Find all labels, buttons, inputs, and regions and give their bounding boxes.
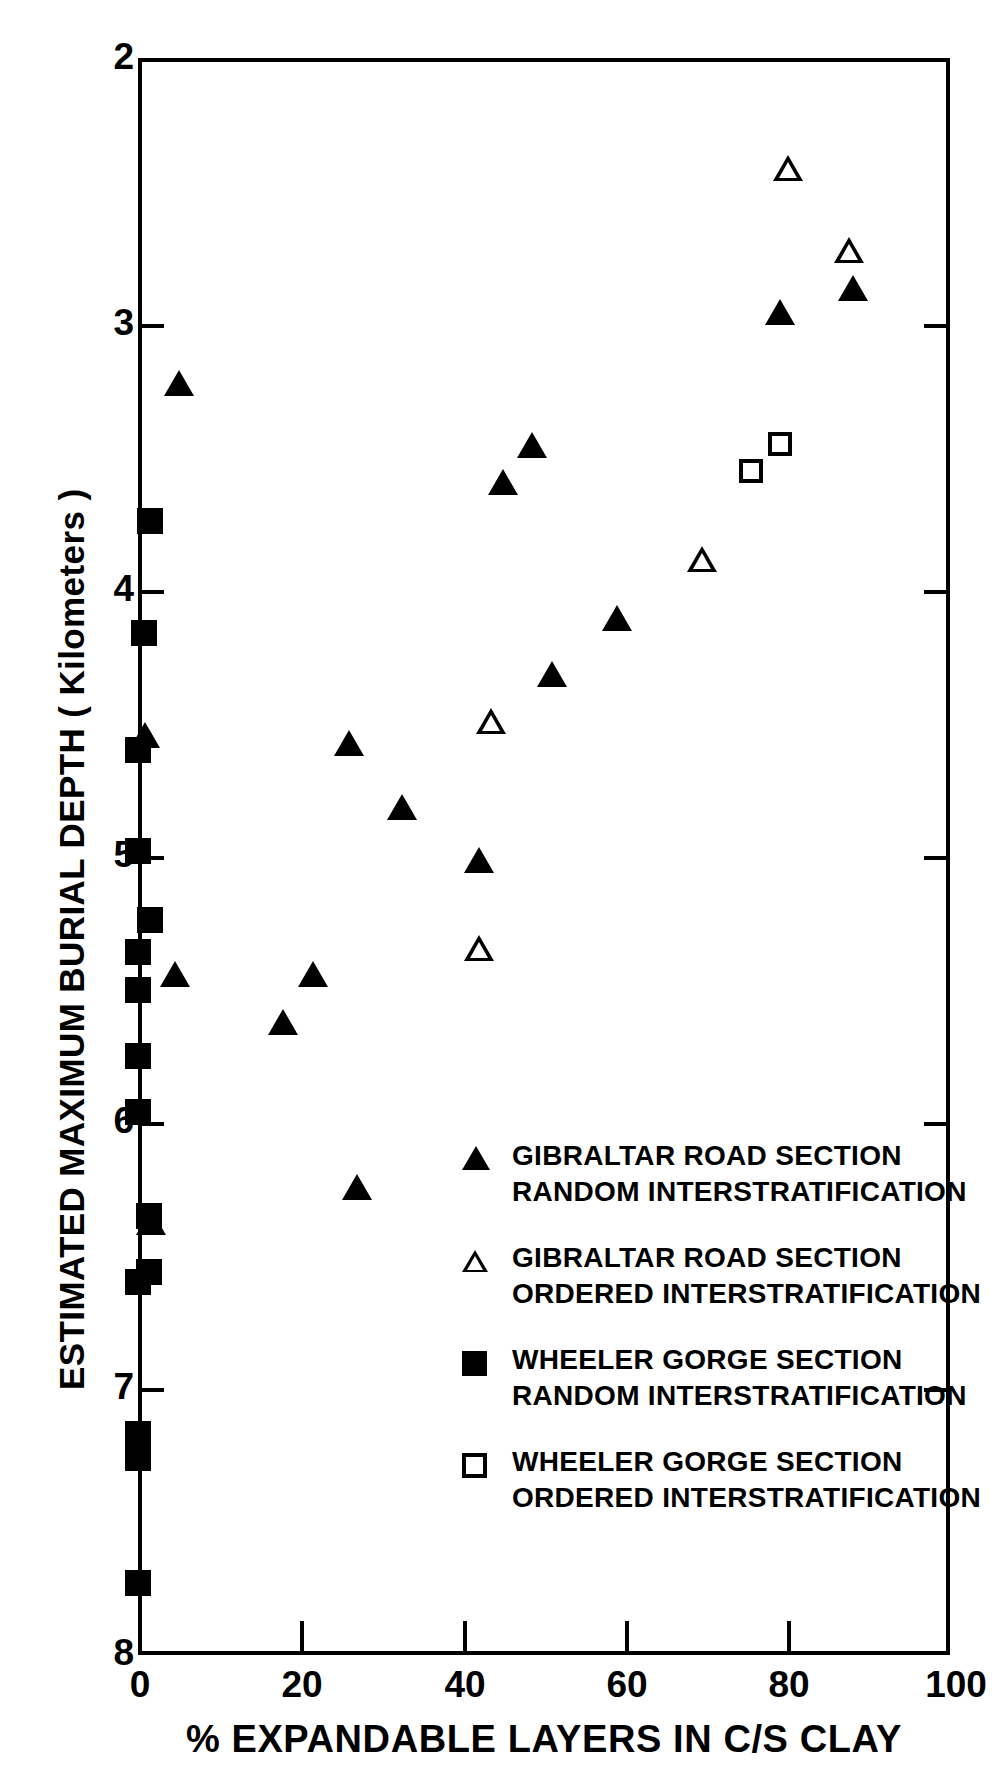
filled-square-marker [137, 508, 163, 534]
filled-triangle-marker [464, 847, 494, 873]
open-square-marker [739, 459, 763, 483]
legend-label-line2: RANDOM INTERSTRATIFICATION [512, 1174, 922, 1210]
filled-square-marker [125, 737, 151, 763]
filled-square-marker [125, 977, 151, 1003]
open-square-icon [460, 1450, 490, 1478]
filled-square-marker [125, 939, 151, 965]
filled-triangle-marker [838, 275, 868, 301]
filled-square-icon [460, 1348, 490, 1376]
open-triangle-marker [464, 935, 494, 961]
filled-square-marker [136, 1203, 162, 1229]
x-tick-label-20: 20 [257, 1666, 347, 1703]
filled-square-marker [136, 1259, 162, 1285]
open-triangle-marker [834, 237, 864, 263]
open-triangle-marker [476, 708, 506, 734]
filled-triangle-marker [387, 794, 417, 820]
filled-triangle-marker [164, 370, 194, 396]
y-tick-label-4: 4 [74, 570, 134, 607]
filled-triangle-marker [160, 961, 190, 987]
y-tick-label-3: 3 [74, 304, 134, 341]
filled-square-marker [131, 620, 157, 646]
figure-scatter-plot: ESTIMATED MAXIMUM BURIAL DEPTH ( Kilomet… [0, 0, 1002, 1784]
filled-triangle-icon [460, 1144, 490, 1172]
x-tick-label-100: 80 [744, 1666, 834, 1703]
filled-square-marker [125, 1043, 151, 1069]
filled-square-marker [125, 838, 151, 864]
open-square-marker [768, 432, 792, 456]
legend-label-line2: RANDOM INTERSTRATIFICATION [512, 1378, 922, 1414]
filled-square-marker [125, 1570, 151, 1596]
legend-label-line1: GIBRALTAR ROAD SECTION [512, 1240, 922, 1276]
filled-triangle-marker [334, 730, 364, 756]
x-axis-title: % EXPANDABLE LAYERS IN C/S CLAY [138, 1718, 950, 1761]
legend-label-line2: ORDERED INTERSTRATIFICATION [512, 1480, 922, 1516]
filled-square-marker [125, 1421, 151, 1447]
y-tick-label-7: 7 [74, 1368, 134, 1405]
legend-entry-wheeler-ordered: WHEELER GORGE SECTION ORDERED INTERSTRAT… [452, 1444, 922, 1516]
filled-triangle-marker [268, 1009, 298, 1035]
open-triangle-icon [460, 1246, 490, 1274]
filled-triangle-marker [602, 605, 632, 631]
x-tick-label-0: 0 [95, 1666, 185, 1703]
x-tick-label-40: 40 [420, 1666, 510, 1703]
filled-triangle-marker [537, 661, 567, 687]
filled-triangle-marker [298, 961, 328, 987]
x-tick-label-60: 60 [582, 1666, 672, 1703]
open-triangle-marker [773, 155, 803, 181]
filled-triangle-marker [488, 469, 518, 495]
legend-entry-gibraltar-ordered: GIBRALTAR ROAD SECTION ORDERED INTERSTRA… [452, 1240, 922, 1312]
filled-square-marker [125, 1099, 151, 1125]
y-tick-label-2: 2 [74, 38, 134, 75]
filled-triangle-marker [517, 432, 547, 458]
legend-entry-gibraltar-random: GIBRALTAR ROAD SECTION RANDOM INTERSTRAT… [452, 1138, 922, 1210]
filled-square-marker [137, 907, 163, 933]
filled-triangle-marker [765, 299, 795, 325]
legend-label-line2: ORDERED INTERSTRATIFICATION [512, 1276, 922, 1312]
legend-label-line1: GIBRALTAR ROAD SECTION [512, 1138, 922, 1174]
y-axis-title: ESTIMATED MAXIMUM BURIAL DEPTH ( Kilomet… [44, 0, 100, 1390]
filled-square-marker [125, 1445, 151, 1471]
x-tick-label-100b: 100 [911, 1666, 1001, 1703]
legend-entry-wheeler-random: WHEELER GORGE SECTION RANDOM INTERSTRATI… [452, 1342, 922, 1414]
legend-label-line1: WHEELER GORGE SECTION [512, 1444, 922, 1480]
legend: GIBRALTAR ROAD SECTION RANDOM INTERSTRAT… [452, 1138, 922, 1516]
filled-triangle-marker [342, 1174, 372, 1200]
open-triangle-marker [687, 546, 717, 572]
legend-label-line1: WHEELER GORGE SECTION [512, 1342, 922, 1378]
